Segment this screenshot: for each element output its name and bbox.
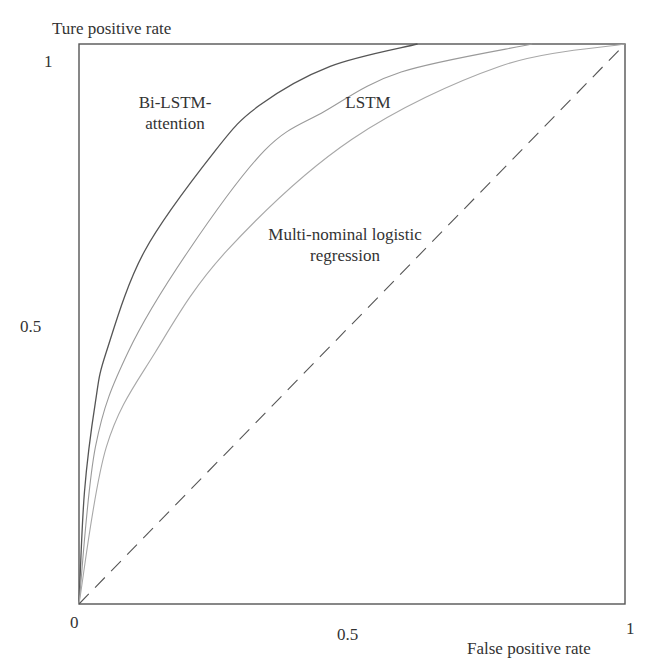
annotation-lstm-line1: LSTM	[338, 92, 398, 113]
annotation-bi-lstm-line2: attention	[130, 113, 220, 134]
y-axis-label: Ture positive rate	[52, 20, 171, 37]
x-tick-0: 0	[70, 614, 79, 631]
x-axis-label: False positive rate	[467, 640, 591, 657]
roc-chart	[0, 0, 651, 672]
y-tick-0-5: 0.5	[20, 318, 41, 335]
annotation-mlr: Multi-nominal logistic regression	[250, 224, 440, 266]
annotation-lstm: LSTM	[338, 92, 398, 113]
x-tick-0-5: 0.5	[337, 626, 358, 643]
annotation-bi-lstm-attention: Bi-LSTM- attention	[130, 92, 220, 134]
x-tick-1: 1	[626, 620, 635, 637]
annotation-mlr-line2: regression	[250, 245, 440, 266]
annotation-bi-lstm-line1: Bi-LSTM-	[130, 92, 220, 113]
y-tick-1: 1	[44, 53, 53, 70]
annotation-mlr-line1: Multi-nominal logistic	[250, 224, 440, 245]
